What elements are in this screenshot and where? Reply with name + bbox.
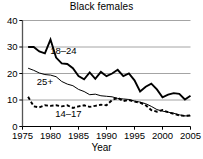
gridlines-group: [23, 21, 191, 101]
y-tick-label-0: 0: [12, 121, 17, 132]
x-tick-label-1985: 1985: [68, 130, 89, 141]
y-tick-label-40: 40: [7, 15, 18, 26]
x-tick-labels-group: 1975198019851990199520002005: [12, 130, 201, 141]
x-tick-label-1995: 1995: [124, 130, 145, 141]
x-tick-label-1980: 1980: [40, 130, 61, 141]
chart-plot-area: 1975198019851990199520002005 010203040 1…: [0, 0, 203, 159]
x-tick-label-1990: 1990: [96, 130, 117, 141]
y-tick-label-20: 20: [7, 68, 18, 79]
x-axis-title: Year: [0, 142, 203, 154]
y-tick-labels-group: 010203040: [7, 15, 18, 132]
y-tick-label-30: 30: [7, 41, 18, 52]
x-tick-label-2005: 2005: [180, 130, 201, 141]
series-annotation-labels-group: 18–2425+14–17: [37, 45, 82, 119]
series-label-18-24: 18–24: [50, 45, 76, 56]
chart-container: Black females 19751980198519901995200020…: [0, 0, 203, 159]
series-label-14-17: 14–17: [55, 108, 81, 119]
y-tick-label-10: 10: [7, 94, 18, 105]
series-label-25+: 25+: [37, 76, 54, 87]
x-tick-label-2000: 2000: [152, 130, 173, 141]
